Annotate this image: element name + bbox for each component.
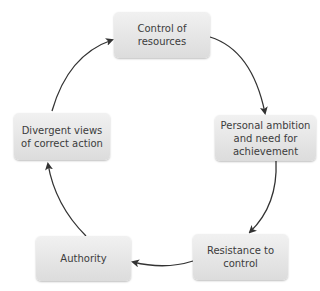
node-resistance-to-control: Resistance to control [193,234,288,280]
node-label: Resistance to control [197,244,284,270]
node-label: Control of resources [118,22,206,48]
arrow-authority-to-divergent [48,164,86,236]
node-label: Authority [60,252,106,265]
arrow-ambition-to-resistance [250,161,276,232]
node-label: Divergent views of correct action [18,124,106,150]
node-control-of-resources: Control of resources [114,12,210,58]
node-divergent-views: Divergent views of correct action [14,113,110,160]
arrow-control-to-ambition [210,37,265,113]
node-label: Personal ambition and need for achieveme… [219,119,312,158]
arrow-resistance-to-authority [133,261,193,266]
node-authority: Authority [36,236,131,281]
arrow-divergent-to-control [52,40,112,111]
node-personal-ambition: Personal ambition and need for achieveme… [215,115,316,161]
